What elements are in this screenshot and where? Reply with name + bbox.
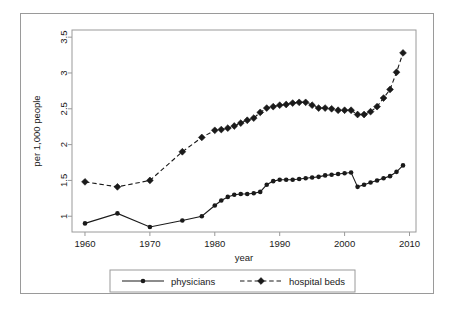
plot-area-box: [72, 30, 416, 232]
data-point-circle-marker: [297, 177, 302, 182]
x-axis-title: year: [235, 252, 253, 263]
data-point-circle-marker: [355, 185, 360, 190]
data-point-circle-marker: [401, 163, 406, 168]
data-point-circle-marker: [323, 173, 328, 178]
data-point-circle-marker: [329, 172, 334, 177]
plot-frame: [72, 30, 416, 232]
data-point-circle-marker: [212, 203, 217, 208]
data-point-circle-marker: [200, 214, 205, 219]
data-point-circle-marker: [251, 191, 256, 196]
data-point-circle-marker: [349, 170, 354, 175]
x-tick-label: 2010: [399, 238, 420, 249]
data-point-circle-marker: [375, 178, 380, 183]
y-tick-label: 1: [59, 214, 70, 219]
y-axis: 11.522.533.5: [59, 31, 73, 219]
data-point-circle-marker: [336, 172, 341, 177]
data-point-circle-marker: [388, 174, 393, 179]
data-point-circle-marker: [83, 221, 88, 226]
data-point-circle-marker: [148, 225, 153, 230]
chart-figure: 11.522.533.5 196019701980199020002010 ye…: [0, 0, 453, 314]
data-point-circle-marker: [394, 170, 399, 175]
y-axis-title: per 1,000 people: [31, 95, 42, 166]
x-tick-label: 1980: [204, 238, 225, 249]
y-tick-label: 1.5: [59, 174, 70, 187]
legend-label: hospital beds: [289, 276, 345, 287]
y-tick-label: 2: [59, 142, 70, 147]
data-point-circle-marker: [225, 195, 230, 200]
data-point-circle-marker: [284, 177, 289, 182]
data-point-circle-marker: [271, 179, 276, 184]
data-point-circle-marker: [310, 175, 315, 180]
data-point-circle-marker: [232, 192, 237, 197]
data-point-circle-marker: [115, 211, 120, 216]
data-point-circle-marker: [180, 218, 185, 223]
y-tick-label: 3.5: [59, 31, 70, 44]
data-point-circle-marker: [362, 182, 367, 187]
x-tick-label: 1990: [269, 238, 290, 249]
chart-canvas: 11.522.533.5 196019701980199020002010 ye…: [0, 0, 453, 314]
chart-legend: physicianshospital beds: [110, 270, 355, 292]
data-point-circle-marker: [258, 190, 263, 195]
data-point-circle-marker: [277, 177, 282, 182]
data-point-circle-marker: [381, 176, 386, 181]
x-tick-label: 1970: [139, 238, 160, 249]
data-point-circle-marker: [316, 175, 321, 180]
x-tick-label: 2000: [334, 238, 355, 249]
data-point-circle-marker: [290, 177, 295, 182]
data-point-circle-marker: [245, 192, 250, 197]
x-axis: 196019701980199020002010: [74, 232, 420, 249]
data-point-circle-marker: [238, 192, 243, 197]
legend-label: physicians: [171, 276, 216, 287]
data-point-circle-marker: [303, 176, 308, 181]
y-tick-label: 3: [59, 70, 70, 75]
legend-circle-marker: [141, 279, 146, 284]
data-point-circle-marker: [368, 180, 373, 185]
data-point-circle-marker: [342, 171, 347, 176]
data-point-circle-marker: [264, 182, 269, 187]
y-tick-label: 2.5: [59, 102, 70, 115]
x-tick-label: 1960: [74, 238, 95, 249]
data-point-circle-marker: [219, 198, 224, 203]
